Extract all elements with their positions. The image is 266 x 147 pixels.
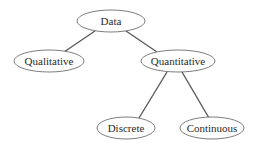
- edge-quantitative-discrete: [139, 72, 167, 118]
- node-continuous: Continuous: [180, 117, 244, 139]
- node-data: Data: [77, 10, 145, 32]
- edge-data-quantitative: [126, 31, 157, 52]
- edge-data-qualitative: [64, 31, 95, 52]
- node-quantitative-label: Quantitative: [151, 55, 205, 67]
- node-quantitative: Quantitative: [141, 50, 215, 72]
- node-qualitative-label: Qualitative: [25, 55, 74, 67]
- node-continuous-label: Continuous: [187, 122, 238, 134]
- node-discrete-label: Discrete: [108, 122, 145, 134]
- node-qualitative: Qualitative: [14, 50, 84, 72]
- edge-quantitative-continuous: [182, 72, 209, 118]
- node-data-label: Data: [101, 15, 122, 27]
- data-types-tree-diagram: Data Qualitative Quantitative Discrete C…: [0, 0, 266, 147]
- node-discrete: Discrete: [97, 117, 155, 139]
